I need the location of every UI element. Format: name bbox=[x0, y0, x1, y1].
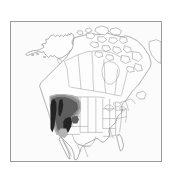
aleutian-islands bbox=[32, 54, 46, 58]
greenland bbox=[149, 40, 161, 64]
figure-root bbox=[0, 0, 173, 169]
florida-peninsula bbox=[117, 134, 124, 151]
newfoundland bbox=[136, 91, 146, 99]
north-america-range-map bbox=[11, 22, 161, 161]
map-frame bbox=[10, 21, 162, 162]
